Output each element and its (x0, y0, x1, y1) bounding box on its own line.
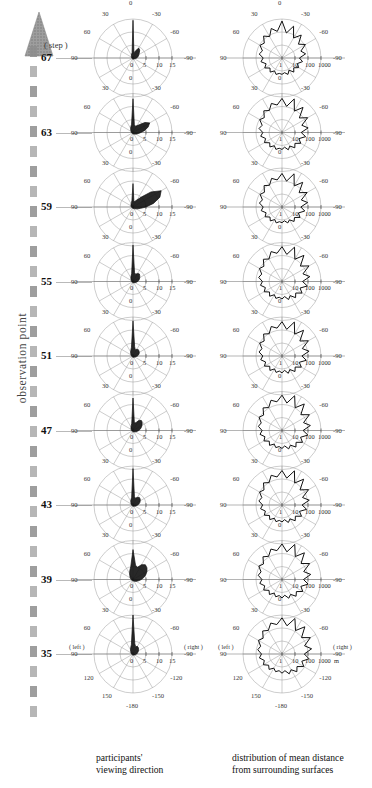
polar-plot-left-59: 051015030-3060-6090-90 (0, 0, 372, 788)
tick-label: 60 (84, 401, 91, 408)
tick-label: -90 (333, 427, 342, 434)
tick-label: 0 (129, 148, 132, 155)
polar-plot-right-35: 1101001000m030-3060-6090-90120-120150-15… (0, 0, 372, 788)
tick-label: -30 (301, 382, 310, 389)
step-label-39: 39 (41, 573, 52, 585)
tick-label: 0 (278, 595, 281, 602)
tick-label: 10 (156, 657, 162, 664)
tick-label: 1000 (318, 284, 331, 291)
tick-label: 100 (305, 657, 315, 664)
tick-label: 1 (279, 582, 282, 589)
tick-label: -30 (152, 606, 161, 613)
track-block (30, 446, 37, 457)
polar-plot-left-55: 051015030-3060-6090-90 (0, 0, 372, 788)
tick-label: 10 (292, 135, 298, 142)
polar-plot-right-55: 1101001000030-3060-6090-90 (0, 0, 372, 788)
polar-plot-right-63: 1101001000030-3060-6090-90 (0, 0, 372, 788)
tick-label: -90 (184, 427, 193, 434)
tick-label: 0 (130, 582, 133, 589)
tick-label: -60 (170, 28, 179, 35)
tick-label: 0 (129, 297, 132, 304)
step-leader-line (56, 505, 92, 506)
tick-label: 60 (84, 103, 91, 110)
tick-label: ( left ) (218, 643, 233, 650)
polar-plot-left-35: 051015030-3060-6090-90120-120150-150-180… (0, 0, 372, 788)
tick-label: 5 (143, 359, 146, 366)
step-leader-line (56, 133, 92, 134)
tick-label: 15 (169, 582, 175, 589)
step-unit-label: ( step ) (44, 40, 68, 50)
tick-label: 0 (278, 0, 281, 6)
tick-label: 30 (102, 233, 109, 240)
tick-label: -90 (184, 278, 193, 285)
tick-label: 15 (169, 284, 175, 291)
tick-label: -90 (184, 129, 193, 136)
track-block (30, 666, 37, 677)
step-label-47: 47 (41, 424, 52, 436)
tick-label: 15 (169, 135, 175, 142)
tick-label: 15 (169, 61, 175, 68)
tick-label: 1000 (318, 210, 331, 217)
step-leader-line (56, 431, 92, 432)
tick-label: 1 (279, 61, 282, 68)
tick-label: -60 (170, 103, 179, 110)
tick-label: -90 (184, 650, 193, 657)
polar-plot-left-51: 051015030-3060-6090-90 (0, 0, 372, 788)
tick-label: 60 (84, 624, 91, 631)
tick-label: 60 (233, 252, 240, 259)
step-label-59: 59 (41, 200, 52, 212)
polar-plot-right-39: 1101001000030-3060-6090-90 (0, 0, 372, 788)
tick-label: 0 (130, 135, 133, 142)
tick-label: -90 (333, 203, 342, 210)
tick-label: -30 (301, 159, 310, 166)
tick-label: -90 (184, 54, 193, 61)
tick-label: 0 (130, 508, 133, 515)
tick-label: 0 (129, 521, 132, 528)
tick-label: 30 (102, 308, 109, 315)
tick-label: 60 (233, 177, 240, 184)
tick-label: 60 (233, 326, 240, 333)
tick-label: 1 (279, 657, 282, 664)
step-label-35: 35 (41, 647, 52, 659)
tick-label: 60 (233, 28, 240, 35)
tick-label: 0 (130, 657, 133, 664)
tick-label: -90 (333, 501, 342, 508)
tick-label: 1000 (318, 433, 331, 440)
tick-label: 10 (292, 657, 298, 664)
tick-label: -30 (152, 233, 161, 240)
tick-label: 60 (233, 401, 240, 408)
track-block (30, 326, 37, 337)
step-label-63: 63 (41, 126, 52, 138)
tick-label: 0 (129, 223, 132, 230)
tick-label: -30 (301, 233, 310, 240)
tick-label: 0 (278, 223, 281, 230)
tick-label: -60 (170, 326, 179, 333)
tick-label: 10 (292, 61, 298, 68)
tick-label: 10 (156, 359, 162, 366)
step-leader-line (56, 580, 92, 581)
tick-label: 15 (169, 657, 175, 664)
tick-label: 10 (292, 284, 298, 291)
tick-label: 90 (220, 278, 227, 285)
tick-label: 90 (220, 650, 227, 657)
tick-label: -90 (333, 650, 342, 657)
tick-label: 120 (233, 674, 243, 681)
tick-label: 30 (102, 382, 109, 389)
tick-label: ( right ) (184, 643, 203, 650)
tick-label: 5 (143, 284, 146, 291)
tick-label: 15 (169, 508, 175, 515)
tick-label: 0 (278, 297, 281, 304)
tick-label: -60 (319, 177, 328, 184)
tick-label: 0 (129, 446, 132, 453)
track-block (30, 246, 37, 257)
tick-label: 30 (251, 531, 258, 538)
tick-label: 15 (169, 359, 175, 366)
track-block (30, 106, 37, 117)
tick-label: 10 (292, 582, 298, 589)
tick-label: 10 (292, 508, 298, 515)
step-label-67: 67 (41, 51, 52, 63)
polar-plot-right-67: 1101001000030-3060-6090-90 (0, 0, 372, 788)
track-block (30, 566, 37, 577)
tick-label: 60 (233, 475, 240, 482)
tick-label: -30 (152, 308, 161, 315)
